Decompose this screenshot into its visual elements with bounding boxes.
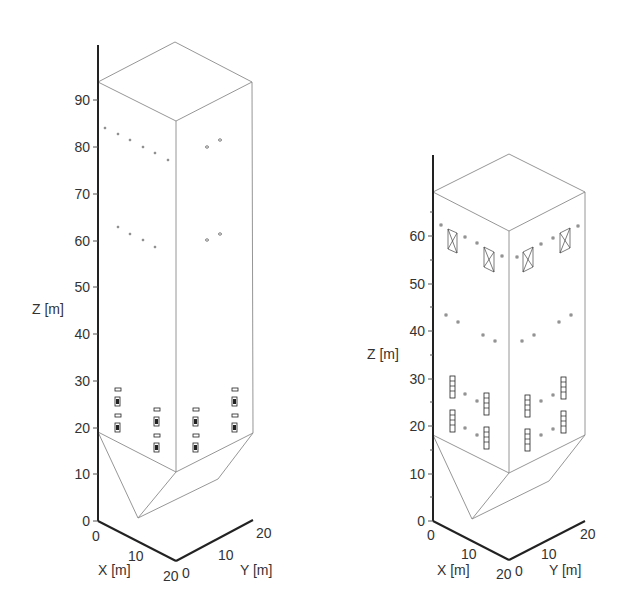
right-z-tick-30: 30 bbox=[409, 371, 425, 387]
left-z-tick-30: 30 bbox=[74, 373, 90, 389]
right-lower-openings bbox=[450, 376, 566, 451]
left-y-tick-0: 0 bbox=[182, 565, 190, 581]
right-z-tick-40: 40 bbox=[409, 323, 425, 339]
right-y-axis: 0 10 20 Y [m] bbox=[509, 521, 596, 579]
right-y-tick-0: 0 bbox=[515, 563, 523, 579]
left-lower-openings bbox=[115, 388, 238, 452]
right-y-axis-title: Y [m] bbox=[549, 562, 581, 578]
right-z-tick-20: 20 bbox=[409, 418, 425, 434]
right-z-tick-50: 50 bbox=[409, 276, 425, 292]
figure-canvas: 0 10 20 30 40 50 60 70 80 90 Z [m] 0 10 … bbox=[0, 0, 618, 609]
left-y-tick-10: 10 bbox=[218, 547, 234, 563]
left-z-tick-50: 50 bbox=[74, 279, 90, 295]
left-panel: 0 10 20 30 40 50 60 70 80 90 Z [m] 0 10 … bbox=[32, 42, 272, 584]
left-silo-wireframe bbox=[98, 42, 253, 518]
left-z-tick-10: 10 bbox=[74, 466, 90, 482]
right-x-axis-title: X [m] bbox=[437, 562, 470, 578]
right-x-tick-20: 20 bbox=[496, 566, 512, 582]
right-y-tick-10: 10 bbox=[541, 546, 557, 562]
left-x-axis: 0 10 20 X [m] bbox=[92, 521, 179, 584]
left-z-axis: 0 10 20 30 40 50 60 70 80 90 Z [m] bbox=[32, 45, 98, 529]
right-panel: 0 10 20 30 40 50 60 Z [m] 0 10 20 X [m] … bbox=[367, 154, 596, 582]
right-z-tick-0: 0 bbox=[417, 513, 425, 529]
right-y-tick-20: 20 bbox=[580, 526, 596, 542]
left-z-tick-60: 60 bbox=[74, 233, 90, 249]
left-z-axis-title: Z [m] bbox=[32, 301, 64, 317]
left-y-axis: 0 10 20 Y [m] bbox=[176, 520, 272, 581]
left-z-tick-0: 0 bbox=[82, 513, 90, 529]
left-x-axis-title: X [m] bbox=[98, 562, 131, 578]
right-x-tick-0: 0 bbox=[427, 527, 435, 543]
right-z-axis: 0 10 20 30 40 50 60 Z [m] bbox=[367, 155, 433, 529]
left-z-tick-90: 90 bbox=[74, 92, 90, 108]
right-z-tick-60: 60 bbox=[409, 228, 425, 244]
left-z-tick-70: 70 bbox=[74, 186, 90, 202]
left-x-tick-20: 20 bbox=[163, 568, 179, 584]
right-z-tick-10: 10 bbox=[409, 466, 425, 482]
left-y-tick-20: 20 bbox=[256, 525, 272, 541]
left-y-axis-title: Y [m] bbox=[240, 562, 272, 578]
right-x-tick-10: 10 bbox=[461, 546, 477, 562]
left-z-tick-40: 40 bbox=[74, 326, 90, 342]
right-mid-sensors bbox=[445, 314, 572, 342]
left-z-tick-20: 20 bbox=[74, 420, 90, 436]
right-x-axis: 0 10 20 X [m] bbox=[427, 521, 512, 582]
left-z-tick-80: 80 bbox=[74, 139, 90, 155]
right-silo-wireframe bbox=[433, 154, 585, 519]
right-z-axis-title: Z [m] bbox=[367, 346, 399, 362]
left-upper-sensors bbox=[104, 127, 221, 248]
left-x-tick-0: 0 bbox=[92, 528, 100, 544]
